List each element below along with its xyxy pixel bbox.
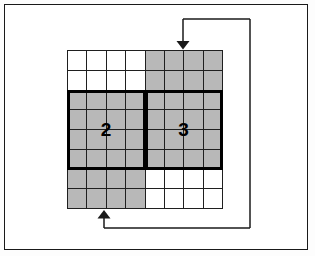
grid-cell-r0-c1 [86, 50, 106, 71]
grid-cell-r7-c7 [203, 188, 223, 209]
grid-cell-r4-c7 [203, 129, 223, 150]
grid-cell-r1-c4 [145, 70, 165, 91]
grid-cell-r1-c6 [183, 70, 203, 91]
grid-cell-r5-c2 [106, 149, 126, 170]
grid-cell-r0-c6 [183, 50, 203, 71]
block-label-3: 3 [178, 120, 188, 139]
grid-cell-r7-c0 [67, 188, 87, 209]
grid-cell-r3-c4 [145, 109, 165, 130]
grid-cell-r2-c5 [164, 90, 184, 111]
grid-cell-r1-c7 [203, 70, 223, 91]
grid-cell-r2-c0 [67, 90, 87, 111]
grid-cell-r2-c6 [183, 90, 203, 111]
grid-cell-r7-c3 [125, 188, 145, 209]
grid-cell-r4-c4 [145, 129, 165, 150]
grid-cell-r7-c1 [86, 188, 106, 209]
grid-cell-r0-c7 [203, 50, 223, 71]
grid-cell-r2-c2 [106, 90, 126, 111]
grid-cell-r6-c0 [67, 169, 87, 190]
grid-cell-r3-c7 [203, 109, 223, 130]
grid-cell-r0-c5 [164, 50, 184, 71]
grid-cell-r7-c6 [183, 188, 203, 209]
grid-cell-r4-c3 [125, 129, 145, 150]
grid-cell-r1-c2 [106, 70, 126, 91]
grid-cell-r5-c0 [67, 149, 87, 170]
top-input-arrow-icon [177, 41, 190, 50]
grid-cell-r7-c5 [164, 188, 184, 209]
grid-cell-r6-c1 [86, 169, 106, 190]
grid-cell-r1-c0 [67, 70, 87, 91]
grid-cell-r7-c4 [145, 188, 165, 209]
grid-cell-r7-c2 [106, 188, 126, 209]
grid-cell-r3-c3 [125, 109, 145, 130]
grid-cell-r0-c2 [106, 50, 126, 71]
grid-cell-r1-c1 [86, 70, 106, 91]
figure-canvas: 23 [0, 0, 315, 256]
grid-cell-r0-c3 [125, 50, 145, 71]
block-label-2: 2 [101, 120, 111, 139]
grid-cell-r0-c4 [145, 50, 165, 71]
block-grid: 23 [67, 50, 222, 208]
bottom-output-arrow-icon [98, 210, 111, 219]
grid-cell-r2-c7 [203, 90, 223, 111]
grid-cell-r5-c4 [145, 149, 165, 170]
grid-cell-r5-c1 [86, 149, 106, 170]
grid-cell-r6-c4 [145, 169, 165, 190]
grid-cell-r5-c6 [183, 149, 203, 170]
grid-cell-r0-c0 [67, 50, 87, 71]
grid-cell-r6-c2 [106, 169, 126, 190]
grid-cell-r3-c0 [67, 109, 87, 130]
grid-cell-r2-c1 [86, 90, 106, 111]
grid-cell-r1-c5 [164, 70, 184, 91]
grid-cell-r1-c3 [125, 70, 145, 91]
grid-cell-r6-c7 [203, 169, 223, 190]
grid-cell-r2-c4 [145, 90, 165, 111]
grid-cell-r5-c7 [203, 149, 223, 170]
grid-cell-r5-c3 [125, 149, 145, 170]
grid-cell-r6-c6 [183, 169, 203, 190]
grid-cell-r5-c5 [164, 149, 184, 170]
grid-cell-r6-c3 [125, 169, 145, 190]
grid-cell-r4-c0 [67, 129, 87, 150]
grid-cell-r2-c3 [125, 90, 145, 111]
grid-cell-r6-c5 [164, 169, 184, 190]
